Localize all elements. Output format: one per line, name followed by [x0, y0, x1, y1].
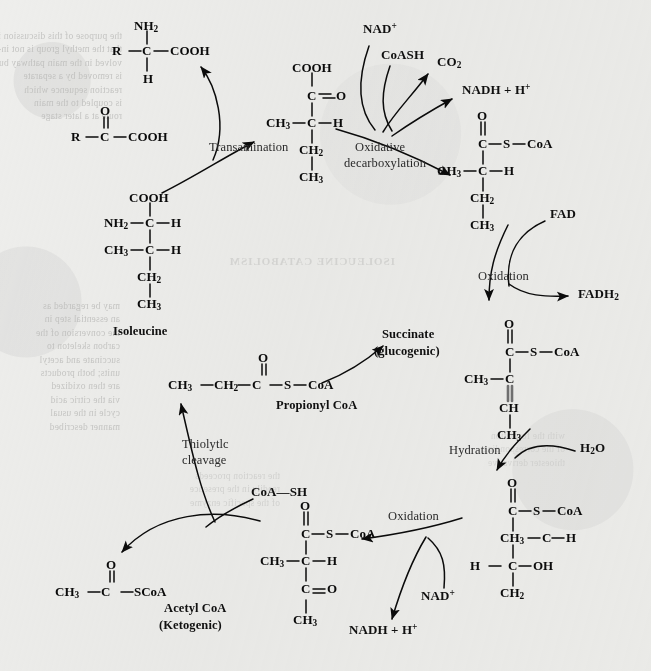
atom-r-generic-keto: R	[71, 129, 80, 145]
arrow-co2-out	[383, 74, 428, 132]
atom-o-ketoacid: O	[336, 88, 346, 104]
pathway-bond-and-arrow-layer	[0, 0, 651, 671]
atom-ch2-ketoacid: CH2	[299, 142, 323, 158]
atom-c3-hydroxy: C	[542, 530, 551, 546]
atom-h-methylbutyryl: H	[504, 163, 514, 179]
atom-c3-tiglyl: C	[505, 371, 514, 387]
atom-c3-ketocoa: C	[301, 553, 310, 569]
arrow-thiolysis-to-acetyl	[122, 514, 260, 552]
atom-coa-hydroxy: CoA	[557, 503, 582, 519]
atom-c-acetyl: C	[101, 584, 110, 600]
atom-c-hydroxy: C	[508, 503, 517, 519]
atom-ch3-methylbutyryl: CH3	[437, 163, 461, 179]
atom-ch2-hydroxy: CH2	[500, 585, 524, 601]
atom-c2-isoleucine: C	[145, 215, 154, 231]
atom-ch3-terminal-methylbutyryl: CH3	[470, 217, 494, 233]
atom-c3-methylbutyryl: C	[478, 163, 487, 179]
atom-ch3-propionyl: CH3	[168, 377, 192, 393]
label-nad-plus-bottom: NAD+	[421, 588, 455, 604]
label-nadh-bottom: NADH + H+	[349, 622, 418, 638]
label-step-oxidation-fad: Oxidation	[478, 269, 529, 284]
bonds-keto-coa	[287, 512, 348, 613]
atom-c-tiglyl: C	[505, 344, 514, 360]
label-metabolite-acetyl-coa: Acetyl CoA	[164, 601, 226, 616]
atom-s-hydroxy: S	[533, 503, 540, 519]
atom-c4-ketocoa: C	[301, 581, 310, 597]
label-step-thiolytic-line2: cleavage	[182, 453, 227, 468]
label-metabolite-succinate-fate: (glucogenic)	[374, 344, 440, 359]
atom-r-generic-amino: R	[112, 43, 121, 59]
bonds-acetyl-coa	[88, 571, 133, 592]
atom-c-propionyl: C	[252, 377, 261, 393]
atom-c-generic-amino: C	[142, 43, 151, 59]
atom-c3-isoleucine: C	[145, 242, 154, 258]
atom-c-ketocoa: C	[301, 526, 310, 542]
atom-scoa-acetyl: SCoA	[134, 584, 167, 600]
atom-s-propionyl: S	[284, 377, 291, 393]
atom-o-tiglyl: O	[504, 316, 514, 332]
label-nad-plus-top: NAD+	[363, 21, 397, 37]
atom-o4-ketocoa: O	[327, 581, 337, 597]
atom-c3-ketoacid: C	[307, 115, 316, 131]
label-co2: CO2	[437, 54, 461, 70]
label-metabolite-isoleucine: Isoleucine	[113, 324, 167, 339]
atom-ch2-isoleucine: CH2	[137, 269, 161, 285]
label-coa-sh: CoA—SH	[251, 484, 307, 500]
atom-ch-tiglyl: CH	[499, 400, 519, 416]
atom-o-hydroxy: O	[507, 475, 517, 491]
label-step-transamination: Transamination	[209, 140, 288, 155]
arrow-oxidation-fad	[489, 225, 508, 300]
label-step-hydration: Hydration	[449, 443, 501, 458]
atom-ch3-tiglyl: CH3	[464, 371, 488, 387]
arrow-nadh-out-top	[392, 99, 452, 136]
atom-s-methylbutyryl: S	[503, 136, 510, 152]
label-step-oxidative-decarboxylation-line2: decarboxylation	[344, 156, 426, 171]
figure-page: ISOLEUCINE CATABOLISM the purpose of thi…	[0, 0, 651, 671]
atom-ch2-methylbutyryl: CH2	[470, 190, 494, 206]
label-nadh-top: NADH + H+	[462, 82, 531, 98]
arrow-nadh-out-bottom	[392, 537, 426, 619]
atom-s-ketocoa: S	[326, 526, 333, 542]
atom-o-generic-keto: O	[100, 103, 110, 119]
atom-coa-propionyl: CoA	[308, 377, 333, 393]
atom-coa-methylbutyryl: CoA	[527, 136, 552, 152]
label-fadh2: FADH2	[578, 286, 619, 302]
atom-ch3-isoleucine: CH3	[104, 242, 128, 258]
atom-nh2-generic: NH2	[134, 18, 158, 34]
atom-ch2-propionyl: CH2	[214, 377, 238, 393]
atom-ch3-ketoacid: CH3	[266, 115, 290, 131]
label-metabolite-acetyl-coa-fate: (Ketogenic)	[159, 618, 222, 633]
label-metabolite-propionyl-coa: Propionyl CoA	[276, 398, 357, 413]
label-fad: FAD	[550, 206, 576, 222]
atom-ch3-terminal-isoleucine: CH3	[137, 296, 161, 312]
atom-o-acetyl: O	[106, 557, 116, 573]
atom-ch3-terminal-ketocoa: CH3	[293, 612, 317, 628]
atom-h3-hydroxy: H	[566, 530, 576, 546]
atom-h2-isoleucine: H	[171, 215, 181, 231]
atom-nh2-isoleucine: NH2	[104, 215, 128, 231]
label-metabolite-succinate: Succinate	[382, 327, 434, 342]
arrow-fadh2-out	[509, 284, 568, 296]
atom-ch3-hydroxy: CH3	[500, 530, 524, 546]
atom-oh-hydroxy: OH	[533, 558, 553, 574]
label-water: H2O	[580, 440, 605, 456]
atom-cooh-ketoacid: COOH	[292, 60, 332, 76]
atom-h-hydroxy: H	[470, 558, 480, 574]
atom-c-generic-keto: C	[100, 129, 109, 145]
atom-cooh-generic-amino: COOH	[170, 43, 210, 59]
atom-h-generic-amino: H	[143, 71, 153, 87]
label-step-oxidative-decarboxylation-line1: Oxidative	[355, 140, 405, 155]
atom-h-ketocoa: H	[327, 553, 337, 569]
atom-c4-hydroxy: C	[508, 558, 517, 574]
atom-ch3-acetyl: CH3	[55, 584, 79, 600]
atom-h3-isoleucine: H	[171, 242, 181, 258]
label-step-thiolytic-line1: Thiolytlc	[182, 437, 229, 452]
label-step-oxidation-nad: Oxidation	[388, 509, 439, 524]
label-coash: CoASH	[381, 47, 424, 63]
atom-o-ketocoa: O	[300, 498, 310, 514]
atom-ch3-ketocoa: CH3	[260, 553, 284, 569]
atom-c2-ketoacid: C	[307, 88, 316, 104]
atom-o-propionyl: O	[258, 350, 268, 366]
atom-h-ketoacid: H	[333, 115, 343, 131]
atom-coa-ketocoa: CoA	[350, 526, 375, 542]
